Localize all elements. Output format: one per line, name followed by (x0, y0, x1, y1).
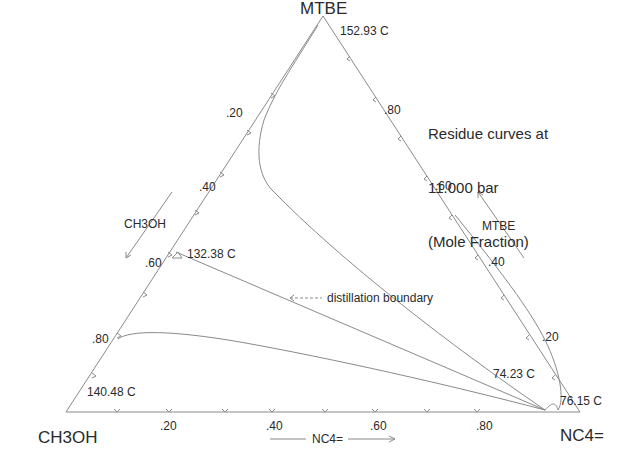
chart-title-line3: (Mole Fraction) (428, 233, 548, 251)
temp-azeotrope-74: 74.23 C (493, 368, 535, 380)
left-tick-20: .20 (226, 107, 243, 119)
left-tick-60: .60 (145, 257, 162, 269)
temp-ch3oh: 140.48 C (87, 386, 136, 398)
left-axis-name: CH3OH (124, 218, 166, 230)
temp-mtbe: 152.93 C (340, 25, 389, 37)
temp-azeotrope-132: 132.38 C (187, 248, 236, 260)
right-tick-20: .20 (542, 331, 559, 343)
left-tick-40: .40 (199, 181, 216, 193)
right-tick-40: .40 (488, 256, 505, 268)
distillation-boundary-label: distillation boundary (327, 292, 433, 304)
distillation-boundary (176, 252, 545, 410)
vertex-label-ch3oh: CH3OH (38, 429, 98, 446)
right-tick-60: .60 (435, 180, 452, 192)
left-ticks (92, 93, 275, 378)
residue-curve-ch3oh (118, 333, 545, 410)
chart-title-line1: Residue curves at (428, 125, 548, 143)
right-tick-80: .80 (384, 104, 401, 116)
vertex-label-nc4: NC4= (560, 427, 604, 444)
residue-curve-mtbe-side (259, 25, 318, 190)
bottom-axis-name: NC4= (312, 433, 343, 445)
bottom-tick-80: .80 (476, 420, 493, 432)
right-axis-name: MTBE (482, 220, 515, 232)
left-tick-80: .80 (92, 333, 109, 345)
azeotrope-marker-132 (172, 252, 182, 258)
temp-nc4: 76.15 C (560, 395, 602, 407)
bottom-tick-20: .20 (160, 420, 177, 432)
vertex-label-mtbe: MTBE (300, 0, 347, 17)
bottom-tick-60: .60 (370, 420, 387, 432)
bottom-tick-40: .40 (266, 420, 283, 432)
